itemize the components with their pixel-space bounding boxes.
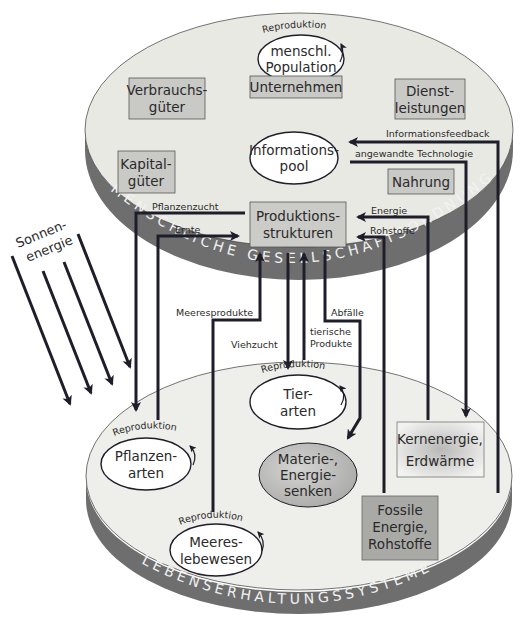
node-nahrung[interactable]: Nahrung [388, 169, 454, 194]
fossile-line2: Energie, [372, 519, 428, 535]
population-line1: menschl. [270, 43, 331, 59]
node-unternehmen[interactable]: Unternehmen [250, 76, 343, 98]
pflanzenarten-line2: arten [128, 465, 164, 481]
kapitalgueter-line2: güter [128, 173, 165, 189]
sun-arrow-1 [12, 256, 70, 404]
verbrauchsgueter-line1: Verbrauchs- [127, 82, 208, 98]
node-produktionsstrukturen[interactable]: Produktions- strukturen [250, 202, 346, 247]
kapitalgueter-line1: Kapital- [120, 156, 172, 172]
dienstleistungen-line2: leistungen [395, 100, 466, 116]
label-abfaelle: Abfälle [331, 307, 364, 318]
system-diagram: LEBENSERHALTUNGSSYSTEME MENSCHLICHE GESE… [0, 0, 527, 630]
node-verbrauchsgueter[interactable]: Verbrauchs- güter [127, 78, 208, 119]
node-kapitalgueter[interactable]: Kapital- güter [118, 151, 175, 193]
label-rohstoffe: Rohstoffe [370, 225, 415, 236]
produktionsstrukturen-line2: strukturen [263, 225, 333, 241]
sun-arrow-2 [43, 271, 91, 393]
sun-energy: Sonnen- energie [12, 217, 130, 404]
population-line2: Population [266, 59, 337, 75]
senken-line2: Energie- [280, 467, 336, 483]
node-dienstleistungen[interactable]: Dienst- leistungen [395, 79, 466, 119]
tierarten-line1: Tier- [282, 386, 313, 402]
label-angewandte-technologie: angewandte Technologie [355, 148, 473, 159]
label-tierische-1: tierische [310, 326, 351, 337]
node-fossile[interactable]: Fossile Energie, Rohstoffe [362, 496, 438, 560]
kernenergie-line2: Erdwärme [406, 453, 475, 469]
node-senken[interactable]: Materie-, Energie- senken [259, 443, 357, 507]
meereslebewesen-line1: Meeres- [189, 534, 243, 550]
dienstleistungen-line1: Dienst- [406, 83, 454, 99]
meereslebewesen-line2: lebewesen [180, 551, 252, 567]
nahrung-label: Nahrung [392, 174, 450, 190]
senken-line1: Materie-, [278, 451, 338, 467]
tierarten-line2: arten [280, 403, 316, 419]
node-kernenergie[interactable]: Kernenergie, Erdwärme [397, 422, 484, 477]
label-pflanzenzucht: Pflanzenzucht [152, 201, 219, 212]
sun-arrow-3 [64, 262, 112, 384]
senken-line3: senken [284, 483, 332, 499]
kernenergie-line1: Kernenergie, [397, 431, 483, 447]
fossile-line3: Rohstoffe [368, 536, 432, 552]
sun-arrow-4 [78, 234, 130, 367]
produktionsstrukturen-line1: Produktions- [256, 208, 340, 224]
informationspool-line1: Informations- [249, 142, 339, 158]
informationspool-line2: pool [280, 158, 309, 174]
node-informationspool[interactable]: Informations- pool [249, 132, 339, 184]
label-tierische-2: Produkte [310, 338, 352, 349]
label-energie: Energie [371, 205, 407, 216]
unternehmen-label: Unternehmen [250, 79, 343, 95]
fossile-line1: Fossile [377, 502, 422, 518]
label-ernte: Ernte [175, 224, 200, 235]
label-meeresprodukte: Meeresprodukte [176, 307, 253, 318]
label-informationsfeedback: Informationsfeedback [386, 128, 490, 139]
pflanzenarten-line1: Pflanzen- [115, 448, 177, 464]
verbrauchsgueter-line2: güter [149, 99, 186, 115]
label-viehzucht: Viehzucht [231, 339, 278, 350]
